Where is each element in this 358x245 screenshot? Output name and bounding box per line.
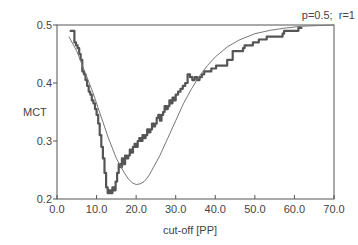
x-tick-label: 10.0: [86, 203, 107, 215]
x-axis-label: cut-off [PP]: [163, 224, 217, 236]
x-tick-label: 70.0: [323, 203, 344, 215]
x-axis: 0.010.020.030.040.050.060.070.0: [49, 195, 344, 215]
plot-border: [57, 25, 334, 199]
series-layer: [69, 25, 334, 193]
y-axis-label: MCT: [23, 106, 47, 118]
x-tick-label: 50.0: [244, 203, 265, 215]
plot-frame: [57, 25, 334, 199]
line-chart: 0.20.30.40.5 0.010.020.030.040.050.060.0…: [0, 0, 358, 245]
x-tick-label: 0.0: [49, 203, 64, 215]
y-tick-label: 0.3: [37, 135, 52, 147]
x-tick-label: 40.0: [205, 203, 226, 215]
x-tick-label: 30.0: [165, 203, 186, 215]
parameter-annotation: p=0.5; r=1: [302, 9, 355, 21]
y-tick-label: 0.5: [37, 19, 52, 31]
empirical-curve: [70, 28, 303, 193]
x-tick-label: 60.0: [284, 203, 305, 215]
chart: 0.20.30.40.5 0.010.020.030.040.050.060.0…: [0, 0, 358, 245]
y-tick-label: 0.4: [37, 77, 52, 89]
theoretical-curve: [69, 25, 334, 185]
x-tick-label: 20.0: [125, 203, 146, 215]
